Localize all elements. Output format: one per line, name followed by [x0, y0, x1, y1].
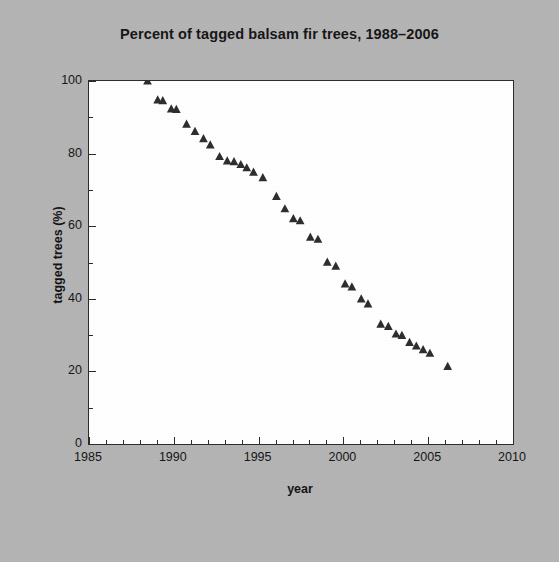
y-axis-title: tagged trees (%)	[51, 115, 65, 395]
y-tick-label: 100	[38, 73, 82, 87]
data-point	[143, 81, 152, 85]
y-axis-title-wrap: tagged trees (%)	[38, 80, 39, 443]
x-tick-label: 1990	[143, 450, 203, 464]
data-markers	[89, 81, 513, 444]
data-point	[306, 232, 315, 240]
data-point	[341, 279, 350, 287]
x-tick-label: 1985	[58, 450, 118, 464]
x-tick-label: 2000	[312, 450, 372, 464]
data-point	[249, 168, 258, 176]
figure-canvas: Percent of tagged balsam fir trees, 1988…	[0, 0, 559, 562]
data-point	[443, 362, 452, 370]
data-point	[376, 320, 385, 328]
x-tick-label: 1995	[228, 450, 288, 464]
x-axis-title: year	[88, 482, 512, 496]
data-point	[223, 156, 232, 164]
data-point	[296, 216, 305, 224]
data-point	[323, 258, 332, 266]
data-point	[331, 262, 340, 270]
data-point	[191, 127, 200, 135]
data-point	[357, 294, 366, 302]
plot-area	[88, 80, 514, 445]
x-tick-label: 2005	[397, 450, 457, 464]
data-point	[384, 322, 393, 330]
data-point	[230, 157, 239, 165]
data-point	[289, 214, 298, 222]
data-point	[215, 152, 224, 160]
x-axis-tick-labels: 198519901995200020052010	[88, 450, 512, 470]
data-point	[272, 192, 281, 200]
data-point	[182, 120, 191, 128]
data-point	[314, 235, 323, 243]
data-point	[281, 204, 290, 212]
x-tick-label: 2010	[482, 450, 542, 464]
data-point	[258, 173, 267, 181]
data-point	[405, 338, 414, 346]
y-tick-label: 0	[38, 436, 82, 450]
data-point	[364, 299, 373, 307]
chart-title: Percent of tagged balsam fir trees, 1988…	[0, 26, 559, 42]
data-point	[199, 134, 208, 142]
